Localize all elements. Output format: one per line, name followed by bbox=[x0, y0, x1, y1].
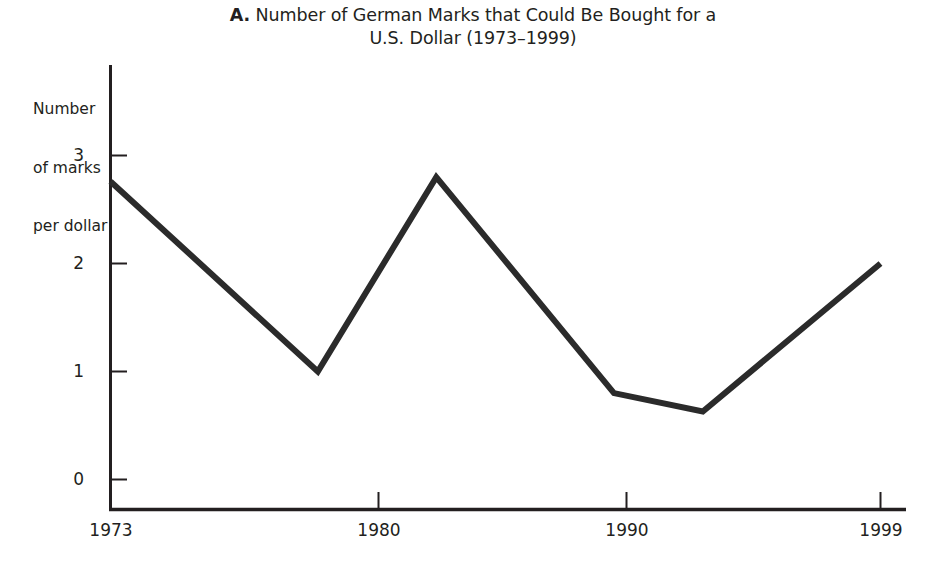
y-tick-label-3: 3 bbox=[44, 147, 84, 164]
y-tick-marks bbox=[110, 156, 127, 480]
chart-canvas bbox=[0, 0, 946, 575]
x-tick-label-1999: 1999 bbox=[836, 522, 926, 539]
x-tick-label-1980: 1980 bbox=[334, 522, 424, 539]
y-tick-label-2: 2 bbox=[44, 255, 84, 272]
x-tick-label-1990: 1990 bbox=[582, 522, 672, 539]
y-axis-label-line-3: per dollar bbox=[33, 217, 107, 237]
y-axis-label-line-1: Number bbox=[33, 100, 107, 120]
y-tick-label-0: 0 bbox=[44, 471, 84, 488]
x-tick-label-1973: 1973 bbox=[66, 522, 156, 539]
y-axis-label: Number of marks per dollar bbox=[33, 61, 107, 276]
x-tick-marks bbox=[111, 492, 881, 509]
data-series-line bbox=[111, 177, 881, 411]
y-tick-label-1: 1 bbox=[44, 363, 84, 380]
plot-area: Number of marks per dollar 3 2 1 0 1973 … bbox=[0, 0, 946, 575]
